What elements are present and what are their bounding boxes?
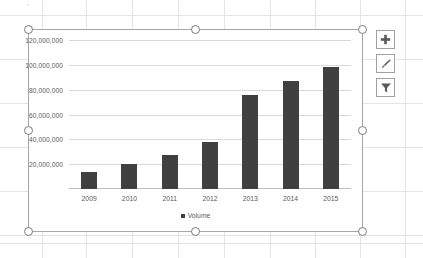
selection-handle-top-left[interactable] [24,25,33,34]
x-axis-tick-label: 2012 [202,195,217,202]
bar-2012[interactable] [202,142,218,189]
x-axis-tick-label: 2009 [82,195,97,202]
stray-cell-mark: ' [27,3,28,9]
y-axis-tick-label: 40,000,000 [29,136,63,143]
x-axis-tick-label: 2014 [283,195,298,202]
x-axis-tick-label: 2010 [122,195,137,202]
bar-slot: 2013 [230,40,270,189]
selection-handle-bottom-left[interactable] [24,227,33,236]
chart-plot-area: 20,000,00040,000,00060,000,00080,000,000… [69,40,351,189]
bar-series-volume: 2009201020112012201320142015 [69,40,351,189]
bar-slot: 2010 [109,40,149,189]
bar-2009[interactable] [81,172,97,189]
chart-legend[interactable]: Volume [29,212,362,219]
legend-label-volume: Volume [188,212,211,219]
selection-handle-top-center[interactable] [191,25,200,34]
bar-slot: 2014 [270,40,310,189]
x-axis-tick-label: 2015 [323,195,338,202]
brush-icon [380,58,392,70]
selection-handle-middle-right[interactable] [358,126,367,135]
chart-quick-buttons [376,30,395,97]
bar-slot: 2012 [190,40,230,189]
bar-2011[interactable] [162,155,178,189]
chart-styles-button[interactable] [376,54,395,73]
chart-object[interactable]: 20,000,00040,000,00060,000,00080,000,000… [28,29,363,232]
bar-2013[interactable] [242,95,258,189]
chart-elements-button[interactable] [376,30,395,49]
selection-handle-bottom-right[interactable] [358,227,367,236]
selection-handle-top-right[interactable] [358,25,367,34]
y-axis-tick-label: 120,000,000 [25,37,63,44]
bar-slot: 2015 [311,40,351,189]
y-axis-tick-label: 100,000,000 [25,61,63,68]
bar-2010[interactable] [121,164,137,189]
selection-handle-bottom-center[interactable] [191,227,200,236]
y-axis-tick-label: 20,000,000 [29,161,63,168]
x-axis-tick-label: 2013 [243,195,258,202]
chart-filters-button[interactable] [376,78,395,97]
funnel-icon [380,82,392,94]
bar-2014[interactable] [283,81,299,189]
plus-icon [380,34,391,45]
legend-swatch-volume [181,214,185,218]
bar-slot: 2011 [150,40,190,189]
sheet-gridline-v [405,0,406,258]
selection-handle-middle-left[interactable] [24,126,33,135]
y-axis-tick-label: 60,000,000 [29,111,63,118]
bar-2015[interactable] [323,67,339,189]
x-axis-tick-label: 2011 [162,195,177,202]
bar-slot: 2009 [69,40,109,189]
y-axis-tick-label: 80,000,000 [29,86,63,93]
